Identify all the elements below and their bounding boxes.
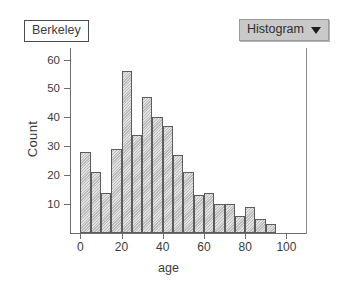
histogram-bar	[101, 193, 111, 233]
histogram-bar	[173, 155, 183, 233]
x-axis-tick-label: 60	[197, 241, 210, 253]
histogram-bar	[204, 193, 214, 233]
x-axis-tick	[204, 233, 205, 239]
x-axis-line	[70, 233, 307, 234]
histogram-bar	[152, 117, 162, 233]
histogram-bar	[266, 224, 276, 233]
histogram-bar	[255, 219, 265, 233]
x-axis-tick-label: 40	[156, 241, 169, 253]
x-axis-tick-label: 100	[276, 241, 296, 253]
plot-type-dropdown[interactable]: Histogram	[239, 19, 329, 41]
histogram-bar	[132, 135, 142, 233]
y-axis-tick-label: 30	[32, 141, 60, 152]
x-axis-tick	[245, 233, 246, 239]
histogram-plot-panel: Berkeley Histogram Count 102030405060 02…	[0, 0, 337, 285]
plot-title-label: Berkeley	[32, 23, 81, 37]
y-axis-tick-label: 10	[32, 199, 60, 210]
x-axis-tick	[286, 233, 287, 239]
plot-title-box: Berkeley	[24, 20, 89, 42]
x-axis-tick	[163, 233, 164, 239]
x-axis-tick-label: 80	[238, 241, 251, 253]
histogram-bar	[122, 71, 132, 233]
histogram-bar	[91, 172, 101, 233]
histogram-bar	[111, 149, 121, 233]
histogram-bar	[142, 97, 152, 233]
histogram-bar	[194, 195, 204, 233]
y-axis-tick-label: 50	[32, 83, 60, 94]
y-axis-tick-label: 40	[32, 112, 60, 123]
y-axis-tick-label: 20	[32, 170, 60, 181]
histogram-bar	[214, 204, 224, 233]
x-axis-tick-label: 20	[115, 241, 128, 253]
x-axis-tick	[122, 233, 123, 239]
y-axis-tick-label: 60	[32, 55, 60, 66]
histogram-bar	[163, 126, 173, 233]
histogram-bar	[235, 216, 245, 233]
x-axis-title-label: age	[0, 262, 337, 275]
x-axis-tick-label: 0	[77, 241, 84, 253]
histogram-bar	[80, 152, 90, 233]
histogram-bar	[245, 207, 255, 233]
histogram-bars	[70, 48, 307, 233]
chevron-down-icon	[311, 27, 321, 34]
histogram-bar	[183, 172, 193, 233]
x-axis-tick	[80, 233, 81, 239]
plot-type-dropdown-label: Histogram	[247, 23, 304, 36]
histogram-bar	[225, 204, 235, 233]
